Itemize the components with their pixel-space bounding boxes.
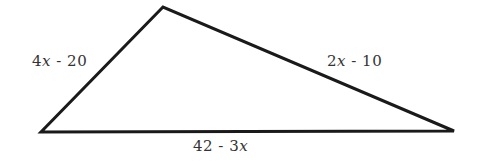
left-side-label: 4x - 20 (32, 52, 87, 70)
bottom-side-var: x (239, 137, 248, 155)
bottom-side-label: 42 - 3x (193, 137, 248, 155)
left-side-coef: 4 (32, 52, 42, 70)
left-side-const: - 20 (51, 52, 87, 70)
right-side-const: - 10 (346, 52, 382, 70)
bottom-side-const: 42 - 3 (193, 137, 239, 155)
left-side-var: x (42, 52, 51, 70)
right-side-coef: 2 (327, 52, 337, 70)
triangle (41, 7, 454, 132)
right-side-label: 2x - 10 (327, 52, 382, 70)
right-side-var: x (337, 52, 346, 70)
